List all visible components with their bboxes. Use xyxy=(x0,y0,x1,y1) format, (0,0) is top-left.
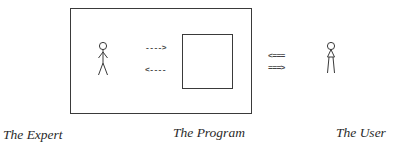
program-to-user-arrow: ===> xyxy=(268,64,285,72)
expert-label: The Expert xyxy=(3,127,63,143)
user-to-program-arrow: <=== xyxy=(268,52,285,60)
program-box-icon xyxy=(182,34,233,89)
expert-to-program-arrow: ----> xyxy=(145,44,166,52)
user-stick-figure-icon xyxy=(324,42,338,75)
program-label: The Program xyxy=(173,125,245,141)
program-to-expert-arrow: <---- xyxy=(145,66,166,74)
expert-stick-figure-icon xyxy=(96,42,110,78)
user-label: The User xyxy=(336,125,386,141)
